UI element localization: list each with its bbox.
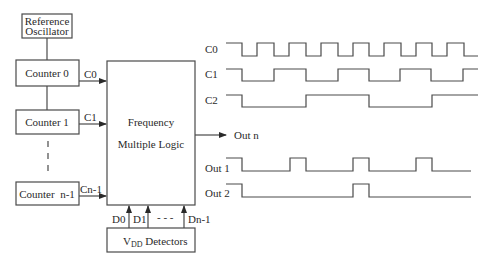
counter-n1-label: Counter n-1 (19, 188, 75, 200)
signal-cn1-label: Cn-1 (80, 183, 102, 195)
counter-1-label: Counter 1 (25, 116, 69, 128)
signal-d1-label: D1 (133, 213, 146, 225)
out-n-label: Out n (234, 129, 259, 141)
waveform-out1-label: Out 1 (205, 162, 230, 174)
waveform-out1 (226, 158, 471, 171)
logic-label-line1: Frequency (128, 116, 175, 128)
waveform-c0 (226, 43, 478, 56)
waveform-out2-label: Out 2 (205, 187, 230, 199)
signal-c1-label: C1 (84, 111, 97, 123)
signal-dn1-label: Dn-1 (188, 213, 211, 225)
waveform-c1 (226, 69, 478, 81)
frequency-multiple-logic-block (107, 61, 195, 205)
waveform-c2-label: C2 (205, 94, 218, 106)
signal-d0-label: D0 (112, 213, 126, 225)
frequency-multiple-diagram: Reference Oscillator Counter 0 Counter 1… (0, 0, 497, 268)
counter-0-label: Counter 0 (25, 67, 69, 79)
ref-osc-line2: Oscillator (25, 25, 69, 37)
signal-dots: - - - (157, 211, 174, 223)
waveform-c0-label: C0 (205, 43, 218, 55)
waveform-c1-label: C1 (205, 68, 218, 80)
signal-c0-label: C0 (84, 68, 97, 80)
logic-label-line2: Multiple Logic (118, 138, 184, 150)
waveform-c2 (226, 95, 478, 107)
waveform-out2 (226, 184, 471, 197)
vdd-detectors-label: VDD Detectors (123, 235, 187, 249)
